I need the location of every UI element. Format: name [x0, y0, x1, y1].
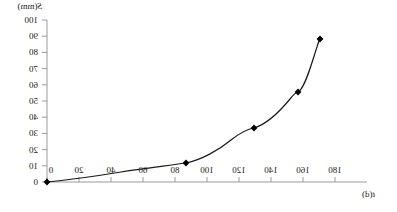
y-tick-label-80: 80: [29, 48, 38, 57]
y-tick-label-90: 90: [29, 32, 38, 41]
data-point-marker: [317, 36, 324, 43]
data-point-markers: [44, 36, 324, 186]
y-tick-label-70: 70: [29, 64, 38, 73]
y-tick-label-20: 20: [29, 145, 38, 154]
y-tick-label-50: 50: [29, 97, 38, 106]
x-axis-ticks: [47, 177, 335, 182]
y-axis-title-unit: (mm): [18, 1, 38, 11]
y-axis-title-symbol: S: [38, 1, 43, 11]
x-axis-title-symbol: t: [372, 189, 375, 199]
x-tick-label-40: 40: [107, 166, 116, 175]
x-tick-label-80: 80: [171, 166, 180, 175]
y-tick-label-100: 100: [25, 16, 39, 25]
x-tick-label-0: 0: [49, 166, 54, 175]
x-axis-title-unit: (d): [362, 189, 373, 199]
y-axis-ticks: [42, 20, 47, 182]
x-tick-label-160: 160: [296, 166, 310, 175]
y-tick-label-40: 40: [29, 113, 38, 122]
x-tick-label-120: 120: [232, 166, 246, 175]
x-tick-label-20: 20: [75, 166, 84, 175]
data-point-marker: [183, 160, 190, 167]
x-axis-title: t(d): [362, 190, 375, 199]
chart-screenshot: 180 160 140 120 100 80 60 40 20 0 100 90…: [0, 0, 397, 212]
y-tick-label-30: 30: [29, 129, 38, 138]
y-axis-title: S(mm): [18, 2, 43, 11]
y-tick-label-10: 10: [29, 161, 38, 170]
x-tick-label-60: 60: [139, 166, 148, 175]
data-point-marker: [44, 179, 51, 186]
x-tick-label-100: 100: [200, 166, 214, 175]
y-tick-label-0: 0: [34, 178, 39, 187]
x-tick-label-180: 180: [328, 166, 342, 175]
data-point-marker: [251, 125, 258, 132]
settlement-curve: [47, 39, 320, 182]
y-tick-label-60: 60: [29, 80, 38, 89]
chart-plot-area: [0, 0, 397, 212]
settlement-time-chart: 180 160 140 120 100 80 60 40 20 0 100 90…: [0, 0, 397, 212]
x-tick-label-140: 140: [264, 166, 278, 175]
